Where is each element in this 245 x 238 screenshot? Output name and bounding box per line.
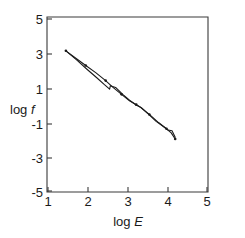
y-tick-label-3: 3 bbox=[36, 47, 43, 62]
axis-titles: log f log E bbox=[10, 102, 143, 229]
chart-plot-area: 5 3 1 -1 -3 -5 1 2 3 4 5 log f log E bbox=[0, 0, 245, 238]
x-axis-label-symbol: E bbox=[134, 214, 143, 229]
y-tick-label-neg1: -1 bbox=[31, 117, 43, 132]
series-marker bbox=[104, 79, 107, 82]
x-tick-label-4: 4 bbox=[164, 194, 171, 209]
x-tick-label-5: 5 bbox=[203, 194, 210, 209]
x-tick-label-3: 3 bbox=[124, 194, 131, 209]
x-tick-label-2: 2 bbox=[84, 194, 91, 209]
series-marker bbox=[174, 138, 177, 141]
y-tick-label-neg3: -3 bbox=[31, 151, 43, 166]
y-axis-ticks bbox=[47, 19, 52, 191]
x-axis-ticks bbox=[48, 187, 207, 192]
axis-frame bbox=[47, 17, 208, 192]
x-axis-tick-labels: 1 2 3 4 5 bbox=[44, 194, 210, 209]
frame-box bbox=[47, 17, 208, 192]
y-tick-label-1: 1 bbox=[36, 82, 43, 97]
y-tick-label-neg5: -5 bbox=[31, 185, 43, 200]
y-axis-label-symbol: f bbox=[31, 102, 36, 117]
series-marker bbox=[84, 64, 87, 67]
y-tick-label-5: 5 bbox=[36, 12, 43, 27]
x-tick-label-1: 1 bbox=[44, 194, 51, 209]
chart-figure: 5 3 1 -1 -3 -5 1 2 3 4 5 log f log E bbox=[0, 0, 245, 238]
x-axis-label-text: log bbox=[113, 214, 130, 229]
data-series-layer bbox=[65, 50, 177, 141]
x-axis-label: log E bbox=[113, 214, 143, 229]
y-axis-label: log f bbox=[10, 102, 36, 117]
y-axis-label-text: log bbox=[10, 102, 27, 117]
